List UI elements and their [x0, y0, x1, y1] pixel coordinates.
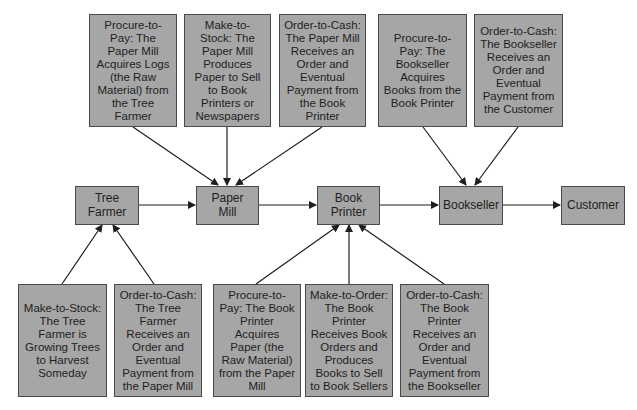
note-text: Procure-to-Pay: The Book Printer Acquire…: [218, 289, 296, 393]
arrow-top-note-5: [475, 127, 518, 185]
arrow-bottom-note-3: [256, 225, 339, 284]
note-text: Procure-to-Pay: The Paper Mill Acquires …: [94, 19, 172, 123]
node-label: Customer: [567, 199, 619, 213]
node-label: Paper Mill: [211, 192, 243, 219]
node-customer: Customer: [561, 186, 625, 225]
note-text: Make-to-Order: The Book Printer Receives…: [310, 289, 388, 393]
bottom-note-book-printer-order-to-cash: Order-to-Cash: The Book Printer Receives…: [400, 284, 489, 397]
top-note-paper-mill-procure-to-pay: Procure-to-Pay: The Paper Mill Acquires …: [89, 14, 177, 127]
top-note-paper-mill-order-to-cash: Order-to-Cash: The Paper Mill Receives a…: [279, 14, 366, 127]
note-text: Order-to-Cash: The Tree Farmer Receives …: [119, 289, 197, 393]
arrow-bottom-note-2: [113, 225, 154, 284]
note-text: Make-to-Stock: The Paper Mill Produces P…: [189, 19, 266, 123]
note-text: Order-to-Cash: The Paper Mill Receives a…: [284, 19, 361, 123]
top-note-paper-mill-make-to-stock: Make-to-Stock: The Paper Mill Produces P…: [184, 14, 271, 127]
note-text: Make-to-Stock: The Tree Farmer is Growin…: [23, 302, 102, 380]
note-text: Order-to-Cash: The Book Printer Receives…: [405, 289, 484, 393]
node-paper-mill: Paper Mill: [196, 186, 259, 225]
arrow-top-note-1: [133, 127, 218, 185]
node-book-printer: Book Printer: [317, 186, 380, 225]
node-label: Book Printer: [331, 192, 366, 219]
node-bookseller: Bookseller: [439, 186, 503, 225]
node-label: Tree Farmer: [88, 192, 127, 219]
top-note-bookseller-order-to-cash: Order-to-Cash: The Bookseller Receives a…: [474, 14, 563, 127]
arrow-top-note-3: [236, 127, 322, 185]
node-tree-farmer: Tree Farmer: [75, 186, 139, 225]
node-label: Bookseller: [443, 199, 499, 213]
bottom-note-tree-farmer-make-to-stock: Make-to-Stock: The Tree Farmer is Growin…: [18, 284, 107, 397]
bottom-note-tree-farmer-order-to-cash: Order-to-Cash: The Tree Farmer Receives …: [114, 284, 202, 397]
bottom-note-book-printer-make-to-order: Make-to-Order: The Book Printer Receives…: [305, 284, 393, 397]
note-text: Procure-to-Pay: The Bookseller Acquires …: [383, 32, 462, 110]
bottom-note-book-printer-procure-to-pay: Procure-to-Pay: The Book Printer Acquire…: [213, 284, 301, 397]
arrow-bottom-note-5: [359, 225, 444, 284]
arrow-bottom-note-1: [62, 225, 102, 284]
arrow-top-note-4: [423, 127, 466, 185]
note-text: Order-to-Cash: The Bookseller Receives a…: [479, 25, 558, 116]
top-note-bookseller-procure-to-pay: Procure-to-Pay: The Bookseller Acquires …: [378, 14, 467, 127]
